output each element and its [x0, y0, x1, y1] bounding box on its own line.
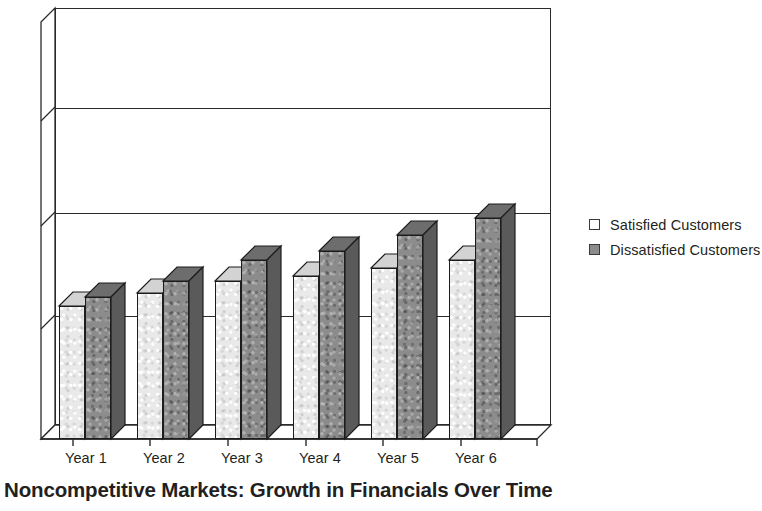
bar-year-5-satisfied: [371, 254, 397, 439]
bar-3d-faces: [85, 283, 127, 441]
bar-year-4-dissatisfied: [319, 237, 345, 439]
bar-year-4-satisfied: [293, 262, 319, 439]
chart-legend: Satisfied Customers Dissatisfied Custome…: [589, 212, 762, 262]
bar-year-6-satisfied: [449, 246, 475, 439]
chart-screenshot: Year 1Year 2Year 3Year 4Year 5Year 6 Sat…: [0, 0, 762, 511]
legend-label-dissatisfied: Dissatisfied Customers: [610, 242, 760, 258]
bar-year-6-dissatisfied: [475, 204, 501, 439]
bar-year-1-satisfied: [59, 292, 85, 439]
bar-year-2-satisfied: [137, 279, 163, 439]
bar-year-2-dissatisfied: [163, 267, 189, 439]
legend-item-satisfied: Satisfied Customers: [589, 212, 762, 237]
white-square-icon: [589, 219, 600, 230]
chart-title: Noncompetitive Markets: Growth in Financ…: [4, 478, 553, 502]
plot-area: Year 1Year 2Year 3Year 4Year 5Year 6: [0, 0, 600, 450]
bar-year-1-dissatisfied: [85, 283, 111, 439]
legend-item-dissatisfied: Dissatisfied Customers: [589, 237, 762, 262]
bar-group: [0, 0, 600, 450]
bar-year-3-dissatisfied: [241, 246, 267, 439]
bar-year-5-dissatisfied: [397, 221, 423, 439]
bar-3d-faces: [241, 246, 283, 441]
x-axis-label-6: Year 6: [429, 450, 523, 466]
bar-3d-faces: [397, 221, 439, 441]
bar-year-3-satisfied: [215, 267, 241, 439]
gray-square-icon: [589, 244, 600, 255]
legend-label-satisfied: Satisfied Customers: [610, 217, 742, 233]
bar-3d-faces: [475, 204, 517, 441]
x-axis-labels: Year 1Year 2Year 3Year 4Year 5Year 6: [0, 450, 600, 474]
bar-3d-faces: [319, 237, 361, 441]
bar-3d-faces: [163, 267, 205, 441]
